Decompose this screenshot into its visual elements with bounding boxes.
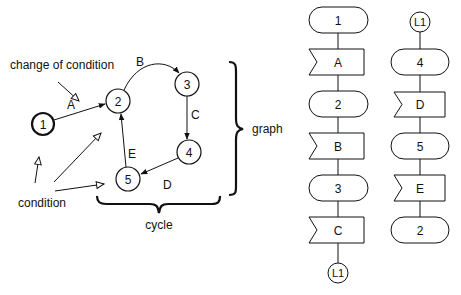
- edge-A: [54, 104, 105, 120]
- node-label: 2: [115, 95, 122, 109]
- column1-connector-L1: L1: [328, 263, 348, 283]
- column1-event-A: A: [309, 49, 364, 75]
- column1-state-3: 3: [309, 175, 368, 201]
- condition-arrow-up: [35, 157, 39, 183]
- cycle-brace: [97, 196, 220, 213]
- column2-state-5: 5: [391, 133, 449, 159]
- edge-label-E: E: [128, 147, 136, 161]
- node-label: 4: [186, 146, 193, 160]
- column2-event-E: E: [394, 175, 445, 201]
- node-label: 3: [184, 78, 191, 92]
- column2-connector-L1: L1: [410, 12, 430, 32]
- event-label: E: [416, 182, 424, 196]
- node-4: 4: [177, 140, 201, 164]
- graph-label: graph: [252, 122, 283, 136]
- column1-state-2: 2: [309, 91, 368, 117]
- change-of-condition-label: change of condition: [10, 58, 114, 72]
- node-label: 5: [125, 173, 132, 187]
- event-label: D: [416, 98, 425, 112]
- column1-state-1: 1: [309, 7, 368, 33]
- column2-state-2: 2: [391, 217, 449, 243]
- diagram-canvas: 1 2 3 4 5 A B C D E change of condition …: [0, 0, 461, 295]
- edge-label-B: B: [136, 55, 144, 69]
- connector-label: L1: [332, 267, 344, 279]
- condition-arrow-diag: [54, 133, 101, 182]
- node-1: 1: [32, 113, 54, 135]
- event-label: B: [334, 140, 342, 154]
- node-2: 2: [106, 89, 130, 113]
- state-label: 4: [417, 56, 424, 70]
- event-label: C: [334, 224, 343, 238]
- state-graph: 1 2 3 4 5 A B C D E change of condition …: [10, 55, 283, 232]
- condition-arrow-right: [55, 184, 104, 191]
- edge-label-D: D: [163, 178, 172, 192]
- event-label: A: [334, 56, 342, 70]
- edge-B: [124, 64, 179, 90]
- graph-brace: [229, 62, 243, 195]
- state-label: 1: [335, 14, 342, 28]
- node-label: 1: [40, 118, 47, 132]
- state-label: 2: [417, 224, 424, 238]
- state-label: 5: [417, 140, 424, 154]
- flowchart: 1 A 2 B 3 C L1 L1: [309, 7, 449, 283]
- edge-label-C: C: [191, 108, 200, 122]
- column1-event-C: C: [309, 217, 364, 243]
- column1-event-B: B: [309, 133, 364, 159]
- edge-label-A: A: [67, 98, 75, 112]
- state-label: 2: [335, 98, 342, 112]
- cycle-label: cycle: [145, 218, 173, 232]
- state-label: 3: [335, 182, 342, 196]
- edge-E: [121, 114, 126, 167]
- node-5: 5: [116, 167, 140, 191]
- column2-event-D: D: [394, 92, 445, 117]
- connector-label: L1: [414, 16, 426, 28]
- column2-state-4: 4: [391, 49, 449, 75]
- edge-D: [141, 158, 178, 174]
- condition-label: condition: [18, 196, 66, 210]
- node-3: 3: [175, 72, 199, 96]
